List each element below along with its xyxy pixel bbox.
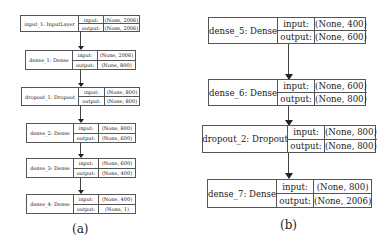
input-label: input: bbox=[74, 159, 99, 168]
input-shape: (None, 2006) bbox=[104, 16, 139, 23]
output-shape: (None, 400) bbox=[99, 169, 135, 178]
layer-name: dense_1: Dense bbox=[26, 51, 73, 69]
output-label: output: bbox=[277, 194, 314, 207]
layer-name: dense_4: Dense bbox=[27, 195, 74, 213]
output-label: output: bbox=[278, 93, 315, 105]
node-dense-6: dense_6: Dense input:(None, 600) output:… bbox=[208, 79, 366, 106]
output-shape: (None, 800) bbox=[105, 97, 139, 105]
output-shape: (None, 800) bbox=[98, 61, 135, 70]
arrow-icon bbox=[80, 70, 81, 86]
arrow-icon bbox=[80, 178, 81, 193]
input-label: input: bbox=[278, 80, 315, 92]
input-shape: (None, 600) bbox=[315, 80, 367, 92]
output-shape: (None, 2006) bbox=[104, 24, 139, 31]
output-label: output: bbox=[74, 169, 99, 178]
node-dropout-2: dropout_2: Dropout input:(None, 800) out… bbox=[202, 125, 376, 153]
input-label: input: bbox=[277, 180, 314, 193]
node-dense-1: dense_1: Dense input:(None, 2006) output… bbox=[25, 50, 136, 70]
layer-name: dense_2: Dense bbox=[27, 124, 74, 142]
layer-name: dense_5: Dense bbox=[209, 18, 278, 43]
input-shape: (None, 2006) bbox=[98, 51, 135, 60]
arrow-icon bbox=[288, 44, 289, 79]
input-shape: (None, 800) bbox=[325, 126, 377, 139]
input-label: input: bbox=[288, 126, 325, 139]
input-label: input: bbox=[73, 51, 98, 60]
node-dense-4: dense_4: Dense input:(None, 400) output:… bbox=[26, 194, 136, 214]
arrow-icon bbox=[80, 143, 81, 157]
input-shape: (None, 800) bbox=[314, 180, 371, 193]
node-dropout-1: dropout_1: Dropout input:(None, 800) out… bbox=[21, 87, 140, 106]
output-label: output: bbox=[79, 97, 105, 105]
input-label: input: bbox=[79, 88, 105, 96]
output-shape: (None, 2006) bbox=[314, 194, 371, 207]
output-shape: (None, 800) bbox=[315, 93, 367, 105]
node-dense-5: dense_5: Dense input:(None, 400) output:… bbox=[208, 17, 366, 44]
input-label: input: bbox=[74, 124, 99, 133]
layer-name: input_1: InputLayer bbox=[21, 16, 79, 31]
arrow-icon bbox=[288, 153, 289, 178]
input-shape: (None, 400) bbox=[99, 195, 135, 204]
input-shape: (None, 600) bbox=[99, 159, 135, 168]
input-label: input: bbox=[278, 18, 315, 30]
layer-name: dense_3: Dense bbox=[27, 159, 74, 177]
arrow-icon bbox=[80, 32, 81, 49]
output-shape: (None, 800) bbox=[325, 140, 377, 153]
output-shape: (None, 600) bbox=[99, 134, 135, 143]
output-label: output: bbox=[73, 61, 98, 70]
input-shape: (None, 800) bbox=[105, 88, 139, 96]
output-label: output: bbox=[288, 140, 325, 153]
output-label: output: bbox=[79, 24, 104, 31]
output-shape: (None, 1) bbox=[99, 205, 135, 214]
output-label: output: bbox=[278, 31, 315, 43]
layer-name: dropout_1: Dropout bbox=[22, 88, 79, 105]
node-dense-7: dense_7: Dense input:(None, 800) output:… bbox=[207, 179, 372, 208]
layer-name: dense_6: Dense bbox=[209, 80, 278, 105]
output-label: output: bbox=[74, 205, 99, 214]
input-shape: (None, 400) bbox=[315, 18, 367, 30]
input-label: input: bbox=[79, 16, 104, 23]
input-label: input: bbox=[74, 195, 99, 204]
input-shape: (None, 800) bbox=[99, 124, 135, 133]
node-input-1: input_1: InputLayer input:(None, 2006) o… bbox=[20, 15, 140, 32]
arrow-icon bbox=[288, 106, 289, 125]
layer-name: dense_7: Dense bbox=[208, 180, 277, 207]
caption-a: (a) bbox=[72, 222, 89, 236]
caption-b: (b) bbox=[280, 218, 297, 232]
output-label: output: bbox=[74, 134, 99, 143]
output-shape: (None, 600) bbox=[315, 31, 367, 43]
layer-name: dropout_2: Dropout bbox=[203, 126, 288, 152]
arrow-icon bbox=[80, 106, 81, 122]
node-dense-2: dense_2: Dense input:(None, 800) output:… bbox=[26, 123, 136, 143]
node-dense-3: dense_3: Dense input:(None, 600) output:… bbox=[26, 158, 136, 178]
